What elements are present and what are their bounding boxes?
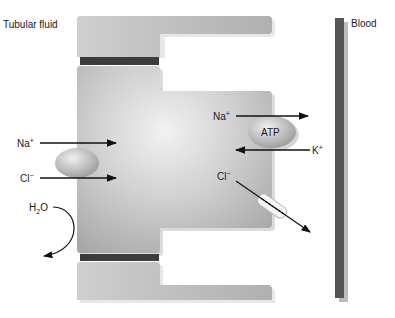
middle-cell bbox=[77, 66, 275, 256]
tubular-fluid-label: Tubular fluid bbox=[3, 19, 58, 30]
tight-junction-top bbox=[80, 57, 159, 65]
atp-label: ATP bbox=[261, 127, 280, 138]
cotransporter-protein bbox=[55, 148, 99, 178]
kidney-epithelium-diagram: Tubular fluid Blood Na+ Cl− H2O Na+ K+ C… bbox=[0, 0, 395, 318]
h2o-label: H2O bbox=[29, 202, 48, 215]
blood-label: Blood bbox=[351, 18, 377, 29]
na-left-label: Na+ bbox=[17, 137, 34, 149]
diagram-canvas: Tubular fluid Blood Na+ Cl− H2O Na+ K+ C… bbox=[0, 0, 395, 318]
tight-junction-bottom bbox=[80, 254, 159, 261]
cl-left-label: Cl− bbox=[20, 172, 34, 184]
blood-vessel-wall bbox=[335, 18, 344, 298]
k-right-label: K+ bbox=[312, 144, 323, 156]
top-cell bbox=[77, 16, 275, 58]
h2o-flow-arrow bbox=[44, 207, 74, 256]
bottom-cell bbox=[77, 262, 275, 303]
